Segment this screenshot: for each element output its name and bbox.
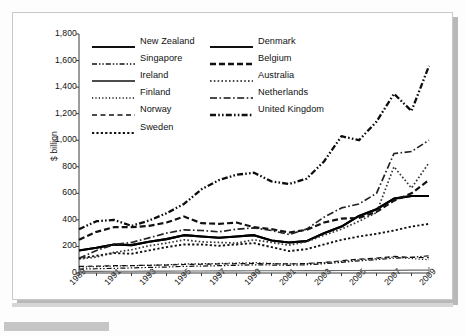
series-line-ireland: [79, 270, 429, 271]
legend-label: Finland: [140, 87, 170, 97]
legend-item-australia[interactable]: Australia: [210, 66, 332, 83]
legend-label: Norway: [140, 104, 171, 114]
legend-line-icon: [210, 37, 253, 45]
legend-line-icon: [92, 105, 135, 113]
legend-line-icon: [210, 54, 253, 62]
legend-swatch-icon: [210, 111, 253, 119]
chart-area: $ billion 1,8001,6001,4001,2001,00080060…: [13, 13, 454, 301]
series-line-netherlands: [79, 140, 429, 258]
legend-item-ireland[interactable]: Ireland: [92, 66, 210, 83]
card-base-strip: [12, 303, 453, 307]
legend-label: Singapore: [140, 53, 182, 63]
legend-item-new-zealand[interactable]: New Zealand: [92, 32, 210, 49]
legend-line-icon: [92, 54, 135, 62]
chart-legend: New ZealandDenmarkSingaporeBelgiumIrelan…: [92, 32, 332, 135]
series-line-sweden: [79, 224, 429, 259]
legend-label: Denmark: [258, 36, 296, 46]
legend-item-norway[interactable]: Norway: [92, 101, 210, 118]
series-line-norway: [79, 256, 429, 266]
legend-item-finland[interactable]: Finland: [92, 84, 210, 101]
legend-label: Australia: [258, 70, 294, 80]
chart-card: $ billion 1,8001,6001,4001,2001,00080060…: [12, 12, 453, 300]
legend-label: United Kingdom: [258, 104, 324, 114]
legend-label: Netherlands: [258, 87, 308, 97]
legend-line-icon: [92, 37, 135, 45]
legend-swatch-icon: [92, 129, 135, 137]
page-footer-bar: [4, 322, 109, 331]
screenshot-root: $ billion 1,8001,6001,4001,2001,00080060…: [0, 0, 466, 336]
legend-item-belgium[interactable]: Belgium: [210, 49, 332, 66]
legend-label: Belgium: [258, 53, 292, 63]
legend-label: Sweden: [140, 122, 174, 132]
legend-item-netherlands[interactable]: Netherlands: [210, 84, 332, 101]
legend-line-icon: [92, 71, 135, 79]
legend-line-icon: [92, 88, 135, 96]
legend-label: Ireland: [140, 70, 168, 80]
legend-label: New Zealand: [140, 36, 195, 46]
legend-item-denmark[interactable]: Denmark: [210, 32, 332, 49]
legend-item-united-kingdom[interactable]: United Kingdom: [210, 101, 332, 118]
legend-line-icon: [210, 88, 253, 96]
legend-line-icon: [210, 105, 253, 113]
legend-item-singapore[interactable]: Singapore: [92, 49, 210, 66]
legend-line-icon: [92, 123, 135, 131]
legend-line-icon: [210, 71, 253, 79]
legend-item-sweden[interactable]: Sweden: [92, 118, 210, 135]
